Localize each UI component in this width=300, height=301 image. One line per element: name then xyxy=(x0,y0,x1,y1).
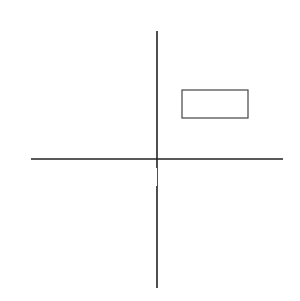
equation-box xyxy=(182,90,248,118)
graph-figure xyxy=(0,0,300,301)
